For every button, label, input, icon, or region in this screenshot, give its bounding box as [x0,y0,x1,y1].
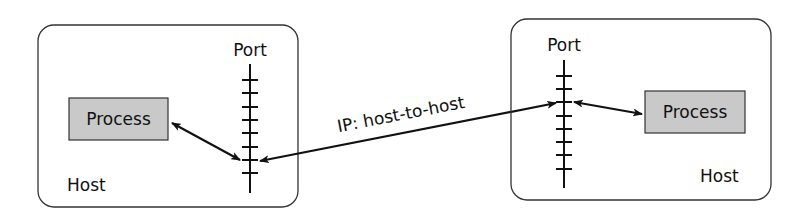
right-process: Process [645,91,745,133]
left-host: Host Port Process [38,25,298,207]
left-process-label: Process [86,109,151,129]
right-port-label: Port [547,35,581,55]
ip-connection-label: IP: host-to-host [335,92,466,136]
right-process-label: Process [663,102,728,122]
right-port-icon [556,60,572,188]
diagram-canvas: Host Port Process IP: host-to-host Host … [0,0,810,219]
left-process: Process [69,98,168,140]
right-host-label: Host [700,166,739,186]
left-port-label: Port [233,40,267,60]
right-host: Host Port Process [511,19,771,200]
left-process-port-arrow-icon [172,123,240,160]
left-port-icon [242,64,258,193]
right-port-process-arrow-icon [574,102,642,114]
left-host-label: Host [67,175,106,195]
